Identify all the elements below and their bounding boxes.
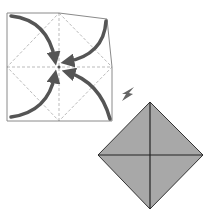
next-step-arrow-icon (122, 87, 134, 101)
square-paper (7, 13, 112, 121)
origami-diagram (0, 0, 207, 214)
arrow-top-right-icon (66, 21, 106, 62)
result-diamond (98, 102, 203, 209)
arrow-top-left-icon (11, 16, 55, 60)
center-point (58, 66, 61, 69)
fold-arrows (11, 16, 110, 119)
arrow-bottom-right-icon (67, 72, 110, 119)
